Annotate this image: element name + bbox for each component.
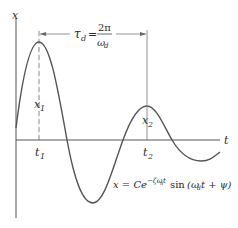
- svg-text:=: =: [88, 28, 97, 41]
- svg-text:2π: 2π: [98, 22, 111, 33]
- marker-1: x 1 t 1: [34, 98, 45, 161]
- marker-2: x 2 t 2: [142, 114, 153, 161]
- y-axis-label: x: [12, 9, 19, 22]
- svg-text:t + ψ): t + ψ): [201, 179, 232, 190]
- svg-text:d: d: [81, 34, 86, 43]
- arrow-left-icon: [40, 32, 46, 36]
- svg-text:1: 1: [40, 152, 45, 161]
- svg-text:τ: τ: [74, 27, 81, 41]
- svg-text:t: t: [163, 177, 166, 185]
- svg-text:2: 2: [147, 120, 153, 129]
- response-equation: x = C e −ζω n t sin (ω d t + ψ): [113, 177, 232, 191]
- x-axis-label: t: [224, 134, 229, 147]
- svg-text:x = C: x = C: [113, 179, 141, 190]
- svg-text:1: 1: [40, 104, 45, 113]
- period-formula: τ d = 2π ω d: [74, 22, 112, 50]
- svg-text:sin: sin: [170, 179, 185, 190]
- svg-text:2: 2: [147, 152, 153, 161]
- svg-text:d: d: [104, 42, 109, 50]
- arrow-right-icon: [140, 32, 146, 36]
- damped-vibration-diagram: x t τ d = 2π ω d x 1 t 1 x 2 t 2 x = C e…: [0, 0, 238, 228]
